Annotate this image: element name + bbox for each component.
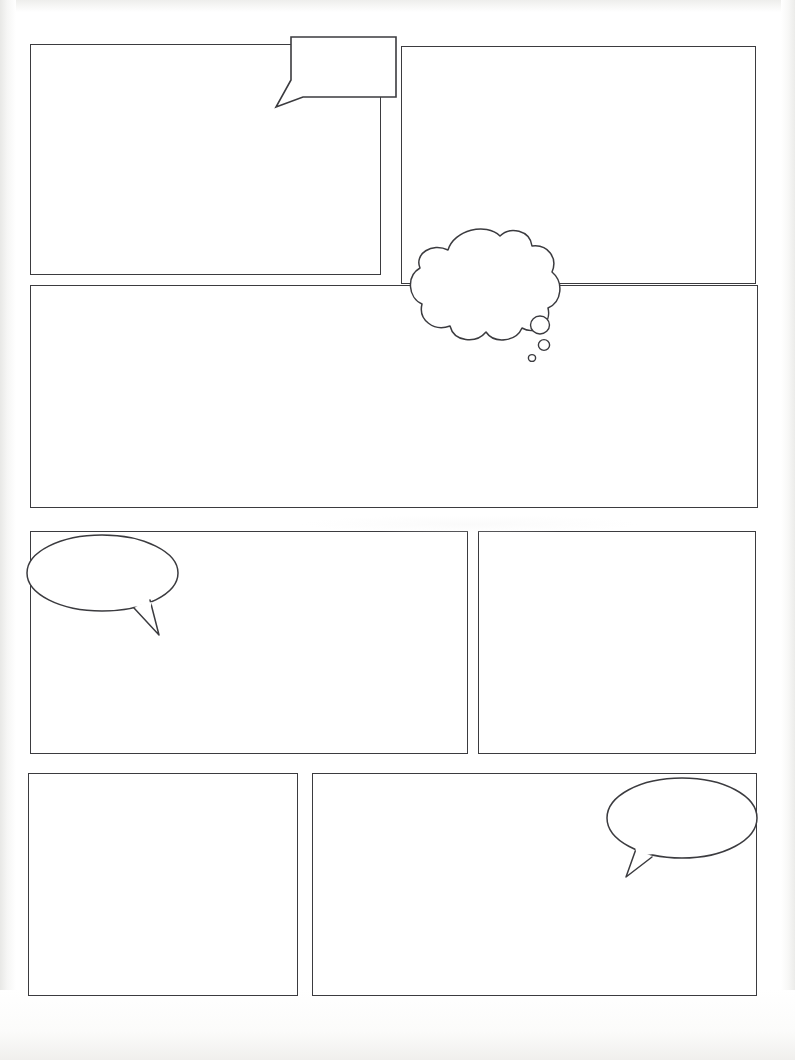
thought-circle-small: [528, 355, 535, 362]
thought-trail-circles: [518, 314, 558, 369]
paper-edge-shading-bottom: [0, 990, 795, 1060]
paper-edge-shading-top: [0, 0, 795, 12]
comic-page: [0, 0, 795, 1060]
oval-speech-balloon-right[interactable]: [606, 777, 781, 897]
comic-panel-middle-right[interactable]: [478, 531, 756, 754]
rectangular-speech-balloon[interactable]: [276, 36, 412, 127]
paper-edge-shading-left: [0, 0, 16, 1060]
thought-circle-medium: [538, 340, 549, 351]
thought-circle-large: [531, 316, 550, 334]
comic-panel-full-width[interactable]: [30, 285, 758, 508]
oval-speech-balloon-left[interactable]: [26, 534, 201, 649]
comic-panel-bottom-left[interactable]: [28, 773, 298, 996]
paper-edge-shading-right: [781, 0, 795, 1060]
